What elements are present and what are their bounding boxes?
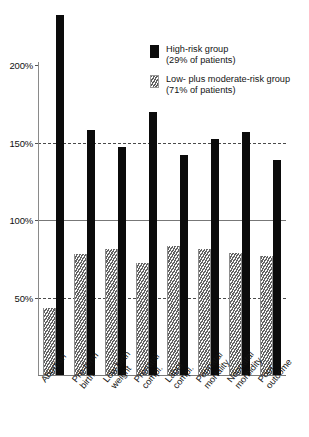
bar-high-risk — [149, 112, 157, 376]
bar-high-risk — [56, 15, 64, 375]
y-tick-label-150: 150% — [10, 137, 34, 148]
legend-item-low-moderate-risk: Low- plus moderate-risk group (71% of pa… — [150, 74, 305, 97]
bar-high-risk — [180, 155, 188, 375]
bar-low-moderate-risk — [105, 249, 118, 375]
chart-legend: High-risk group (29% of patients) Low- p… — [150, 44, 305, 103]
y-tick-label-100: 100% — [10, 215, 34, 226]
legend-low-risk-line1: Low- plus moderate-risk group — [166, 74, 290, 84]
bar-low-moderate-risk — [167, 246, 180, 375]
legend-low-risk-line2: (71% of patients) — [166, 85, 290, 96]
legend-high-risk-line2: (29% of patients) — [166, 55, 235, 66]
legend-swatch-high-risk-icon — [150, 45, 159, 58]
bar-high-risk — [118, 147, 126, 375]
bar-low-moderate-risk — [260, 256, 273, 375]
bar-high-risk — [211, 139, 219, 375]
legend-swatch-low-moderate-risk-icon — [150, 75, 159, 88]
bar-low-moderate-risk — [229, 253, 242, 375]
bar-low-moderate-risk — [198, 249, 211, 375]
bar-high-risk — [242, 132, 250, 375]
legend-item-high-risk: High-risk group (29% of patients) — [150, 44, 305, 67]
legend-label-high-risk: High-risk group (29% of patients) — [166, 44, 235, 67]
bar-high-risk — [87, 130, 95, 375]
y-tick-label-200: 200% — [10, 60, 34, 71]
bar-high-risk — [273, 160, 281, 375]
bar-low-moderate-risk — [74, 254, 87, 375]
legend-high-risk-line1: High-risk group — [166, 44, 228, 54]
risk-outcome-bar-chart: 50%100%150%200% High-risk group (29% of … — [0, 0, 309, 437]
legend-label-low-moderate-risk: Low- plus moderate-risk group (71% of pa… — [166, 74, 290, 97]
x-axis-category-labels: AbortionPre-termbirthLow birthweightPren… — [0, 378, 309, 437]
y-tick-label-50: 50% — [15, 292, 33, 303]
